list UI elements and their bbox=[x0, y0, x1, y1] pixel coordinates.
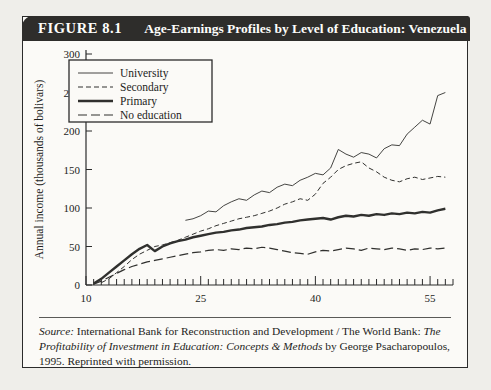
chart-plot-region: 05010015020025030010254055AgeAnnual inco… bbox=[23, 42, 467, 307]
y-axis-tick-label: 150 bbox=[64, 164, 81, 176]
legend-label-primary: Primary bbox=[120, 95, 157, 108]
y-axis-title: Annual income (thousands of bolivars) bbox=[33, 80, 46, 260]
figure-header-banner: FIGURE 8.1 Age-Earnings Profiles by Leve… bbox=[22, 16, 470, 41]
caption-divider bbox=[39, 317, 451, 318]
x-axis-tick-label: 10 bbox=[81, 292, 93, 304]
x-axis-tick-label: 25 bbox=[195, 292, 207, 304]
figure-container: FIGURE 8.1 Age-Earnings Profiles by Leve… bbox=[22, 16, 468, 368]
series-line-university bbox=[185, 93, 445, 221]
figure-number-label: FIGURE 8.1 bbox=[38, 20, 122, 37]
source-caption: Source: International Bank for Reconstru… bbox=[39, 324, 453, 369]
y-axis-tick-label: 200 bbox=[64, 125, 81, 137]
x-axis-tick-label: 55 bbox=[425, 292, 437, 304]
source-label: Source: bbox=[39, 325, 74, 337]
legend-label-no-education: No education bbox=[120, 109, 182, 121]
y-axis-tick-label: 100 bbox=[64, 202, 81, 214]
legend-label-secondary: Secondary bbox=[120, 81, 169, 94]
series-line-primary bbox=[94, 209, 446, 284]
series-line-secondary bbox=[101, 162, 445, 283]
legend-label-university: University bbox=[120, 67, 169, 80]
age-earnings-line-chart: 05010015020025030010254055AgeAnnual inco… bbox=[23, 42, 467, 307]
figure-title-label: Age-Earnings Profiles by Level of Educat… bbox=[144, 21, 466, 37]
y-axis-tick-label: 300 bbox=[64, 48, 81, 60]
y-axis-tick-label: 50 bbox=[69, 241, 81, 253]
series-line-no-education bbox=[94, 247, 446, 284]
y-axis-tick-label: 0 bbox=[75, 279, 81, 291]
source-text-1: International Bank for Reconstruction an… bbox=[74, 325, 423, 337]
x-axis-tick-label: 40 bbox=[310, 292, 322, 304]
